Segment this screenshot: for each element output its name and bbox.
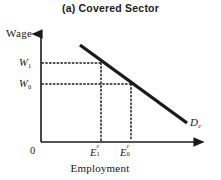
x-tick-label-employment-low: Ec1 [90, 145, 101, 158]
demand-curve-label: Dc [190, 116, 201, 128]
employment-low-scripts: c1 [96, 145, 101, 156]
wage-low-base: W [19, 78, 28, 89]
y-tick-label-wage-low: W0 [19, 78, 31, 89]
wage-high-base: W [19, 57, 28, 68]
employment-high-superscript: c [126, 142, 129, 149]
x-axis-label: Employment [0, 162, 200, 174]
y-tick-label-wage-high: W1 [19, 57, 31, 68]
figure-panel: (a) Covered Sector Wage Employment W1 [0, 0, 221, 180]
y-axis-label: Wage [6, 27, 32, 39]
employment-low-subscript: 1 [96, 150, 99, 157]
employment-high-scripts: c0 [126, 145, 131, 156]
x-tick-label-employment-high: Ec0 [120, 145, 131, 158]
origin-label: 0 [30, 145, 35, 156]
employment-low-superscript: c [96, 142, 99, 149]
demand-curve-base: D [190, 116, 198, 128]
employment-high-subscript: 0 [126, 150, 129, 157]
wage-high-subscript: 1 [28, 62, 31, 69]
demand-curve-subscript: c [198, 122, 201, 130]
wage-low-subscript: 0 [28, 83, 31, 90]
